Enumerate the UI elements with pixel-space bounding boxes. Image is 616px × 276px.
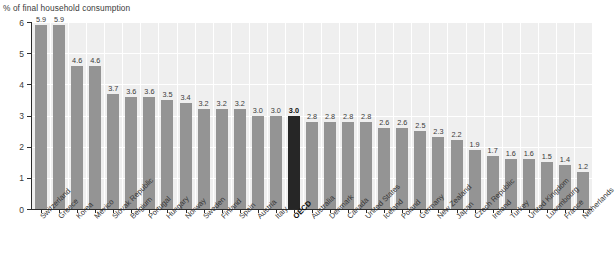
chart-title: % of final household consumption — [3, 3, 130, 13]
y-tick-label: 5 — [8, 49, 24, 59]
bar[interactable] — [35, 25, 47, 209]
y-tick-label: 1 — [8, 173, 24, 183]
bar[interactable] — [216, 109, 228, 209]
bar[interactable] — [270, 116, 282, 210]
y-tick-mark — [27, 209, 31, 210]
y-tick-label: 3 — [8, 111, 24, 121]
bar[interactable] — [107, 94, 119, 209]
bar[interactable] — [71, 66, 83, 209]
bar[interactable] — [288, 116, 300, 210]
y-tick-label: 0 — [8, 205, 24, 215]
bar[interactable] — [306, 122, 318, 209]
y-tick-mark — [27, 84, 31, 85]
bar[interactable] — [53, 25, 65, 209]
bar-value-label: 4.6 — [83, 57, 107, 64]
y-tick-mark — [27, 178, 31, 179]
bar[interactable] — [180, 103, 192, 209]
bar-value-label: 5.9 — [47, 16, 71, 23]
y-tick-label: 4 — [8, 80, 24, 90]
y-tick-label: 2 — [8, 142, 24, 152]
bar[interactable] — [161, 100, 173, 209]
bar-value-label: 1.2 — [571, 163, 595, 170]
y-tick-label: 6 — [8, 18, 24, 28]
y-tick-mark — [27, 116, 31, 117]
bar-value-label: 2.2 — [444, 131, 468, 138]
bar[interactable] — [198, 109, 210, 209]
bar[interactable] — [89, 66, 101, 209]
bar[interactable] — [143, 97, 155, 209]
y-tick-mark — [27, 53, 31, 54]
bar[interactable] — [252, 116, 264, 210]
y-tick-mark — [27, 147, 31, 148]
bar[interactable] — [234, 109, 246, 209]
